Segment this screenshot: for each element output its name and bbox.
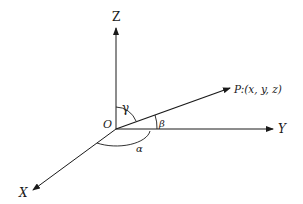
origin-label: O xyxy=(103,118,112,131)
z-axis-label: Z xyxy=(112,10,120,24)
beta-label: β xyxy=(158,118,165,129)
x-axis xyxy=(33,129,116,190)
y-axis-label: Y xyxy=(278,122,287,136)
alpha-label: α xyxy=(136,143,143,154)
gamma-label: γ xyxy=(122,101,129,115)
beta-arc xyxy=(155,115,157,129)
point-p-label: P:(x, y, z) xyxy=(233,83,282,95)
x-axis-label: X xyxy=(18,186,28,200)
coordinate-diagram: Z Y X O P:(x, y, z) γ β α xyxy=(0,0,303,204)
vector-op xyxy=(116,88,230,129)
